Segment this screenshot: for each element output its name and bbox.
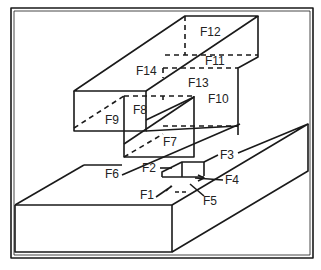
- label-f5: F5: [203, 194, 217, 208]
- label-f6: F6: [105, 167, 119, 181]
- label-f14: F14: [136, 64, 157, 78]
- label-f13: F13: [188, 76, 209, 90]
- label-f9: F9: [105, 113, 119, 127]
- label-f3: F3: [220, 148, 234, 162]
- label-f12: F12: [200, 25, 221, 39]
- feature-diagram: F12 F11 F14 F13 F10 F8 F9 F7 F6 F2 F3 F4…: [0, 0, 321, 270]
- label-f1: F1: [140, 188, 154, 202]
- inner-frame: [14, 11, 310, 255]
- label-f4: F4: [225, 173, 239, 187]
- diagram-canvas: F12 F11 F14 F13 F10 F8 F9 F7 F6 F2 F3 F4…: [0, 0, 321, 270]
- label-f2: F2: [142, 161, 156, 175]
- labels: F12 F11 F14 F13 F10 F8 F9 F7 F6 F2 F3 F4…: [105, 25, 239, 208]
- label-f10: F10: [208, 92, 229, 106]
- small-feature: [156, 155, 223, 197]
- outer-frame: [11, 8, 313, 258]
- base-block: [15, 124, 308, 252]
- label-f8: F8: [133, 103, 147, 117]
- label-f11: F11: [205, 54, 225, 68]
- label-f7: F7: [163, 135, 177, 149]
- upper-box: [74, 16, 258, 135]
